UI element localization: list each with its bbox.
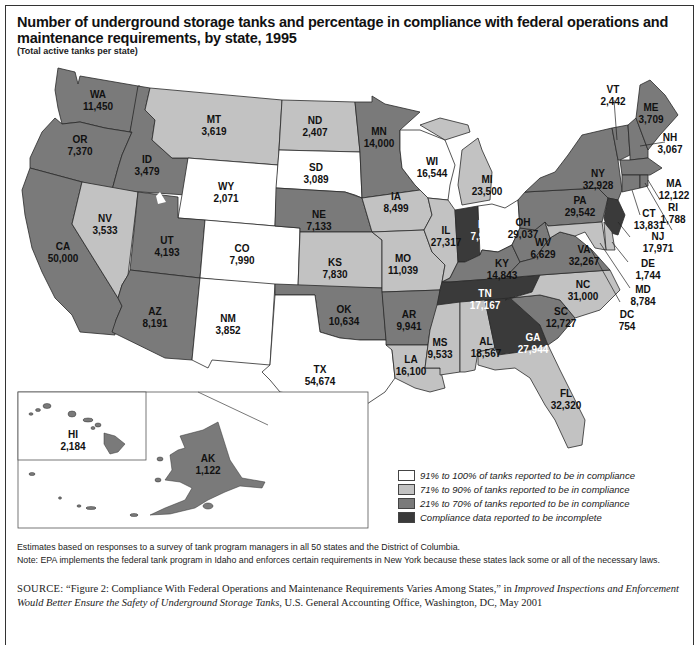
state-MA [620,158,662,175]
legend-swatch-white [398,470,415,481]
source-quote: “Figure 2: Compliance With Federal Opera… [66,583,514,594]
state-ND [279,100,360,152]
note-survey: Estimates based on responses to a survey… [17,541,660,554]
svg-text:MD8,784: MD8,784 [630,284,655,307]
legend-swatch-light-gray [398,484,415,495]
svg-text:NJ17,971: NJ17,971 [643,231,674,254]
source-rest: U.S. General Accounting Office, Washingt… [282,597,542,608]
source-citation: SOURCE: “Figure 2: Compliance With Feder… [17,582,687,610]
inset-ak-hi [18,392,368,528]
label-WA: WA [90,89,106,100]
source-label: SOURCE: [17,583,63,594]
legend-item-71-90: 71% to 90% of tanks reported to be in co… [398,482,635,496]
notes: Estimates based on responses to a survey… [17,541,660,567]
legend-item-incomplete: Compliance data reported to be incomplet… [398,510,635,524]
state-CO [200,220,300,288]
svg-text:DC754: DC754 [619,309,636,332]
legend-item-21-70: 21% to 70% of tanks reported to be in co… [398,496,635,510]
state-WA [55,68,140,132]
legend: 91% to 100% of tanks reported to be in c… [398,468,635,524]
svg-text:RI1,788: RI1,788 [660,202,685,225]
legend-item-91-100: 91% to 100% of tanks reported to be in c… [398,468,635,482]
note-epa: Note: EPA implements the federal tank pr… [17,554,660,567]
legend-swatch-mid-gray [398,498,415,509]
svg-text:CT13,831: CT13,831 [634,208,665,231]
state-WY [178,158,278,226]
svg-text:VT2,442: VT2,442 [600,84,625,107]
svg-text:NH3,067: NH3,067 [657,132,682,155]
state-CT [622,175,640,192]
svg-text:MA12,122: MA12,122 [659,178,690,201]
svg-text:DE1,744: DE1,744 [635,258,660,281]
legend-swatch-dark-gray [398,512,415,523]
